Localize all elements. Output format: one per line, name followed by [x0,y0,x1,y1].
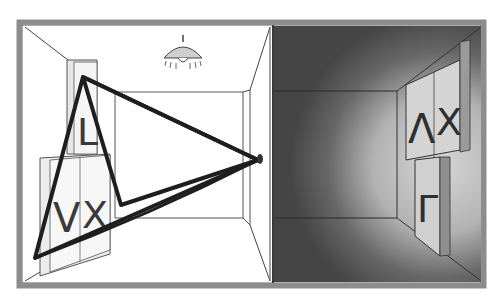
projected-letter-lambda: Λ [408,106,436,152]
right-room: Λ X Γ [273,26,481,282]
wall-sign-lower: V X [40,154,110,276]
left-room: L V X [23,26,273,282]
camera-obscura-illustration: L V X Λ [0,0,502,306]
pinhole-aperture-icon [257,154,263,164]
projected-letter-x: X [436,100,462,144]
projected-letter-gamma: Γ [417,187,438,231]
sign-letter-v: V [53,195,81,241]
